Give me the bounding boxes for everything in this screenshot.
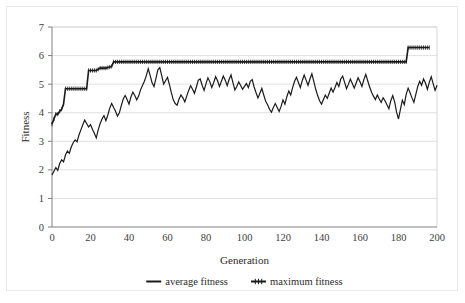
x-axis-tick-labels: 020406080100120140160180200	[49, 232, 445, 243]
x-tick-label-120: 120	[275, 232, 291, 243]
x-tick-label-20: 20	[85, 232, 96, 243]
y-tick-label-2: 2	[39, 164, 44, 175]
legend-label: maximum fitness	[270, 276, 343, 287]
chart-container: 01234567 020406080100120140160180200 Gen…	[0, 0, 465, 303]
x-tick-label-80: 80	[201, 232, 212, 243]
y-axis-title: Fitness	[19, 111, 31, 142]
chart-legend: average fitnessmaximum fitness	[146, 276, 342, 287]
y-tick-label-1: 1	[39, 193, 44, 204]
axis-titles: GenerationFitness	[19, 111, 269, 266]
series-average-fitness	[52, 68, 437, 175]
y-tick-label-3: 3	[39, 136, 44, 147]
x-tick-label-200: 200	[429, 232, 445, 243]
x-tick-label-140: 140	[314, 232, 330, 243]
y-tick-label-5: 5	[39, 79, 44, 90]
average-fitness-line	[52, 68, 437, 175]
y-tick-label-7: 7	[39, 22, 44, 33]
y-axis-ticks	[48, 27, 52, 227]
y-axis-tick-labels: 01234567	[39, 22, 45, 233]
x-tick-label-160: 160	[352, 232, 368, 243]
fitness-line-chart: 01234567 020406080100120140160180200 Gen…	[0, 0, 465, 303]
y-tick-label-4: 4	[39, 107, 45, 118]
x-axis-title: Generation	[220, 254, 269, 266]
y-tick-label-6: 6	[39, 50, 44, 61]
x-tick-label-180: 180	[391, 232, 407, 243]
y-tick-label-0: 0	[39, 222, 44, 233]
legend-label: average fitness	[165, 276, 228, 287]
x-tick-label-100: 100	[237, 232, 253, 243]
x-tick-label-60: 60	[162, 232, 173, 243]
x-tick-label-40: 40	[124, 232, 135, 243]
grid-lines	[52, 27, 437, 198]
plot-frame	[52, 27, 437, 227]
x-tick-label-0: 0	[49, 232, 54, 243]
